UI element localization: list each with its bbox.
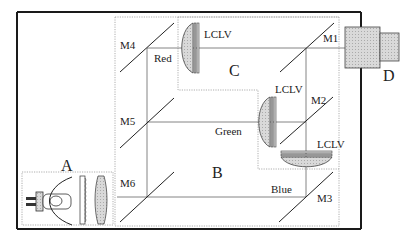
label-region-b: B bbox=[212, 165, 223, 181]
label-m6: M6 bbox=[120, 178, 135, 189]
label-m1: M1 bbox=[323, 33, 338, 44]
mirror-m1 bbox=[280, 23, 334, 72]
label-m5: M5 bbox=[120, 116, 135, 127]
lclv-blue bbox=[281, 151, 332, 167]
label-region-a: A bbox=[61, 158, 73, 174]
label-lclv-green: LCLV bbox=[275, 84, 303, 95]
label-blue: Blue bbox=[271, 184, 292, 195]
projector-lens-d bbox=[345, 27, 399, 68]
label-m2: M2 bbox=[311, 95, 326, 106]
label-green: Green bbox=[215, 126, 242, 137]
label-region-c: C bbox=[229, 63, 240, 79]
lamp-assembly bbox=[26, 176, 107, 225]
label-m4: M4 bbox=[120, 40, 135, 51]
mirrors bbox=[120, 23, 334, 222]
label-red: Red bbox=[154, 53, 172, 64]
label-lclv-red: LCLV bbox=[204, 29, 232, 40]
label-m3: M3 bbox=[317, 193, 332, 204]
label-region-d: D bbox=[383, 68, 395, 84]
label-lclv-blue: LCLV bbox=[317, 139, 345, 150]
